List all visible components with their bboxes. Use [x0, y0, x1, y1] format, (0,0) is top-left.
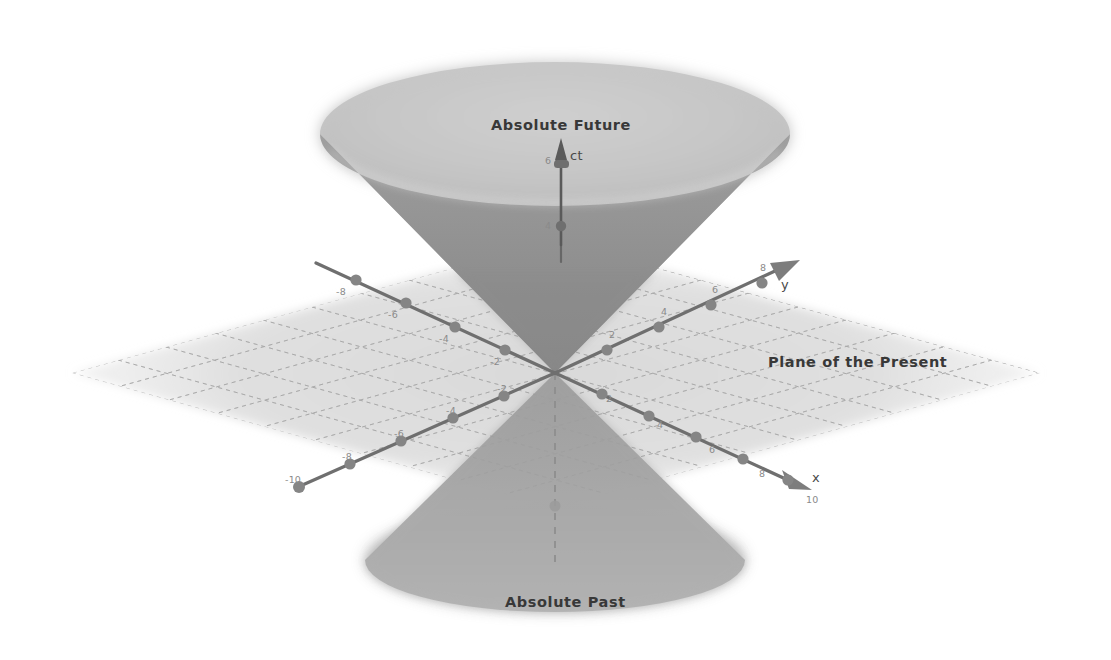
x-tick-label: 2 — [606, 393, 612, 404]
x-tick-label: -6 — [394, 428, 404, 439]
y-tick-label: -4 — [439, 333, 449, 344]
ct-tick-label: 4 — [545, 220, 551, 231]
x-tick-label: 10 — [806, 494, 819, 505]
ct-axis-label: ct — [570, 148, 583, 163]
lightcone-canvas — [0, 0, 1111, 660]
future-cone-rim-ellipse — [320, 62, 790, 206]
y-tick-label: 4 — [661, 306, 667, 317]
y-tick-label: 6 — [712, 284, 718, 295]
y-tick-label: 8 — [760, 262, 766, 273]
ct-negative-tick-dot — [550, 501, 561, 512]
x-tick-label: 4 — [657, 419, 663, 430]
x-tick-label: 8 — [759, 468, 765, 479]
absolute-past-label: Absolute Past — [505, 594, 626, 610]
y-axis-label: y — [781, 277, 789, 292]
absolute-future-label: Absolute Future — [491, 117, 631, 133]
x-tick-label: -4 — [446, 405, 456, 416]
y-tick-label: -6 — [388, 309, 398, 320]
plane-of-the-present-label: Plane of the Present — [768, 354, 947, 370]
x-tick-label: -10 — [285, 474, 301, 485]
y-tick-label: -8 — [336, 286, 346, 297]
x-tick-label: -8 — [342, 451, 352, 462]
y-tick-label: -2 — [490, 356, 500, 367]
y-tick-label: 2 — [609, 329, 615, 340]
x-tick-label: 6 — [709, 444, 715, 455]
x-axis-label: x — [812, 470, 820, 485]
x-tick-label: -2 — [497, 383, 507, 394]
ct-tick-label: 6 — [545, 155, 551, 166]
lightcone-figure: Absolute Future Absolute Past Plane of t… — [0, 0, 1111, 660]
